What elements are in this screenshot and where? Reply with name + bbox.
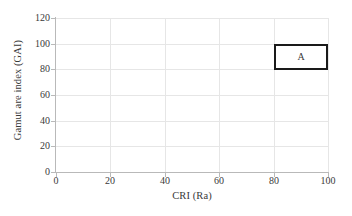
y-axis-tick-label: 60: [8, 90, 50, 100]
plot-area: A: [56, 18, 328, 172]
y-axis-tick: [51, 95, 55, 96]
y-axis-tick-label: 100: [8, 39, 50, 49]
x-axis-title: CRI (Ra): [56, 190, 328, 201]
y-axis-tick: [51, 146, 55, 147]
y-axis-tick: [51, 44, 55, 45]
x-axis-tick-label: 0: [36, 176, 76, 186]
gridline-horizontal: [56, 18, 328, 19]
gridline-vertical: [165, 18, 166, 172]
gridline-horizontal: [56, 121, 328, 122]
gridline-vertical: [328, 18, 329, 172]
y-axis-tick-label: 80: [8, 64, 50, 74]
x-axis-tick-label: 80: [254, 176, 294, 186]
gridline-vertical: [219, 18, 220, 172]
x-axis-tick-label: 20: [90, 176, 130, 186]
gridline-vertical: [274, 18, 275, 172]
y-axis-tick: [51, 121, 55, 122]
x-axis-tick-label: 40: [145, 176, 185, 186]
x-axis-line: [55, 172, 329, 173]
y-axis-tick: [51, 172, 55, 173]
y-axis-tick: [51, 18, 55, 19]
chart-figure: Gamut are index (GAI) CRI (Ra) A 0204060…: [0, 0, 352, 216]
data-region-label: A: [297, 52, 304, 62]
x-axis-tick-label: 60: [199, 176, 239, 186]
gridline-vertical: [110, 18, 111, 172]
gridline-horizontal: [56, 95, 328, 96]
y-axis-tick-label: 20: [8, 141, 50, 151]
data-region-box: A: [274, 44, 328, 70]
gridline-horizontal: [56, 146, 328, 147]
x-axis-tick-label: 100: [308, 176, 348, 186]
y-axis-tick: [51, 69, 55, 70]
y-axis-tick-label: 40: [8, 116, 50, 126]
y-axis-tick-label: 120: [8, 13, 50, 23]
